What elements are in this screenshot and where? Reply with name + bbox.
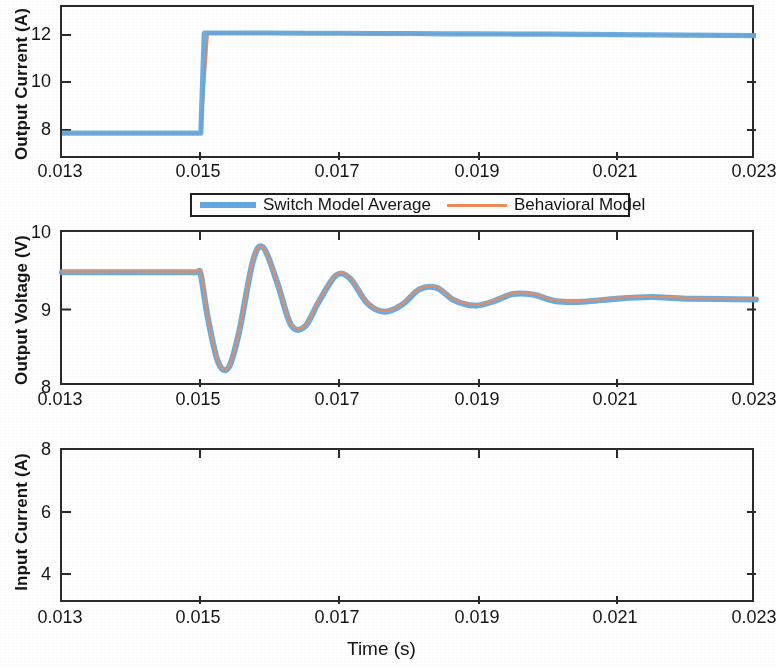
panel3-x-tick-0: 0.013 <box>15 608 105 626</box>
panel2-x-tick-4: 0.021 <box>570 390 660 408</box>
panel1-switch-model-average-line <box>62 33 756 133</box>
legend-label-switch-model-average: Switch Model Average <box>263 195 431 215</box>
panel-output-voltage: Output Voltage (V) 10 9 8 <box>0 222 776 417</box>
legend-label-behavioral-model: Behavioral Model <box>514 195 645 215</box>
panel3-y-ticks-marks <box>62 512 756 574</box>
panel2-x-tick-1: 0.015 <box>153 390 243 408</box>
panel1-x-tick-0: 0.013 <box>15 162 105 180</box>
panel3-x-tick-5: 0.023 <box>709 608 776 626</box>
legend-line-swatch-icon-blue <box>200 202 256 208</box>
panel2-plot-area <box>60 230 754 385</box>
panel1-plot-area <box>60 5 754 158</box>
panel3-y-tick-4: 4 <box>5 565 51 583</box>
panel1-y-tick-10: 10 <box>5 72 51 90</box>
panel3-x-tick-2: 0.017 <box>292 608 382 626</box>
panel2-x-tick-2: 0.017 <box>292 390 382 408</box>
legend-line-swatch-icon-orange <box>447 204 507 207</box>
panel2-behavioral-model-line <box>62 246 756 369</box>
legend: Switch Model Average Behavioral Model <box>190 193 630 217</box>
panel2-x-tick-3: 0.019 <box>432 390 522 408</box>
panel3-y-tick-8: 8 <box>5 440 51 458</box>
panel3-x-tick-1: 0.015 <box>153 608 243 626</box>
legend-entry-switch-model-average: Switch Model Average <box>200 195 431 215</box>
legend-entry-behavioral-model: Behavioral Model <box>447 195 645 215</box>
panel2-switch-model-average-line <box>62 246 756 370</box>
panel1-y-ticks-marks <box>62 35 756 130</box>
x-axis-label: Time (s) <box>347 638 416 660</box>
panel3-y-tick-6: 6 <box>5 503 51 521</box>
panel1-behavioral-model-line <box>62 33 756 133</box>
panel2-y-tick-10: 10 <box>5 223 51 241</box>
panel1-y-tick-8: 8 <box>5 120 51 138</box>
panel1-x-tick-4: 0.021 <box>570 162 660 180</box>
panel1-x-tick-2: 0.017 <box>292 162 382 180</box>
panel1-series-layer <box>62 7 756 160</box>
panel2-x-tick-0: 0.013 <box>15 390 105 408</box>
panel1-x-tick-3: 0.019 <box>432 162 522 180</box>
panel1-x-tick-5: 0.023 <box>709 162 776 180</box>
panel2-y-tick-9: 9 <box>5 301 51 319</box>
panel1-x-ticks-marks <box>200 152 617 160</box>
panel3-plot-area <box>60 448 754 602</box>
panel3-x-tick-3: 0.019 <box>432 608 522 626</box>
figure-root: Output Current (A) 12 10 8 <box>0 0 776 668</box>
panel1-y-tick-12: 12 <box>5 25 51 43</box>
panel3-x-ticks-marks <box>200 450 617 604</box>
panel2-series-layer <box>62 232 756 387</box>
panel2-x-ticks-marks <box>200 232 617 387</box>
panel-input-current: Input Current (A) 8 6 4 <box>0 440 776 668</box>
panel-output-current: Output Current (A) 12 10 8 <box>0 0 776 190</box>
panel1-x-tick-1: 0.015 <box>153 162 243 180</box>
panel3-series-layer <box>62 450 756 604</box>
panel3-x-tick-4: 0.021 <box>570 608 660 626</box>
panel2-x-tick-5: 0.023 <box>709 390 776 408</box>
